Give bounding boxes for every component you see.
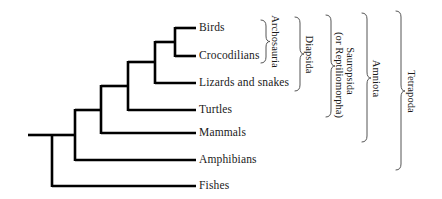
bracket-tetrapoda [396,11,405,170]
clade-label-tetrapoda: Tetrapoda [405,61,416,123]
tree-branches [28,27,196,187]
clade-label-sauropsida-line2: (or Reptiliomorpha) [334,32,345,110]
clade-label-sauropsida-line1: Sauropsida [345,32,356,110]
clade-label-sauropsida: Sauropsida (or Reptiliomorpha) [334,32,356,110]
taxon-label-amphibians: Amphibians [199,154,257,166]
taxon-label-birds: Birds [199,22,225,34]
phylogenetic-tree-figure: Birds Crocodilians Lizards and snakes Tu… [0,0,442,199]
clade-label-amniota: Amniota [370,49,381,109]
clade-label-diapsida: Diapsida [303,25,314,85]
taxon-label-crocodilians: Crocodilians [199,50,260,62]
taxon-label-turtles: Turtles [199,104,232,116]
taxon-label-lizards-and-snakes: Lizards and snakes [199,77,289,89]
clade-label-archosauria: Archosauria [269,12,280,72]
taxon-label-mammals: Mammals [199,127,246,139]
taxon-label-fishes: Fishes [199,180,229,192]
